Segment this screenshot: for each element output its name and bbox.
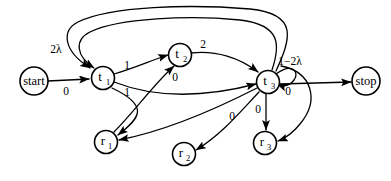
edge-label-t3-r3: 0 — [255, 103, 261, 115]
node-t2-subscript: 2 — [183, 54, 187, 64]
node-r2-label: r — [179, 145, 184, 160]
node-stop-label: stop — [356, 74, 377, 88]
edge-r1-t2 — [114, 66, 174, 132]
node-r3[interactable]: r 3 — [254, 132, 277, 155]
node-r1-subscript: 1 — [108, 141, 112, 151]
edge-label-t3-stop: 0 — [285, 85, 291, 97]
node-t2-label: t — [175, 46, 179, 61]
edge-t3-r2 — [196, 92, 259, 150]
node-start[interactable]: start — [20, 67, 48, 95]
node-r2-subscript: 2 — [186, 153, 190, 163]
edge-label-r1-t2: 0 — [172, 71, 178, 83]
node-t1-subscript: 1 — [106, 77, 110, 87]
node-r1[interactable]: r 1 — [95, 131, 118, 154]
edge-label-t2-t3: 2 — [200, 38, 206, 50]
node-r2-circle[interactable] — [173, 143, 196, 166]
state-transition-diagram: 0 1 1 2 0 1−2λ 0 0 0 2λ start t 1 — [0, 0, 391, 181]
edge-start-t1 — [48, 79, 89, 81]
diagram-canvas: 0 1 1 2 0 1−2λ 0 0 0 2λ start t 1 — [0, 0, 391, 181]
node-t3-label: t — [263, 73, 267, 88]
edge-label-t3-self-loop: 1−2λ — [278, 55, 302, 67]
node-t1-label: t — [98, 69, 102, 84]
node-t3-circle[interactable] — [257, 71, 280, 94]
node-r3-subscript: 3 — [267, 142, 271, 152]
edge-label-start-t1: 0 — [63, 85, 69, 97]
node-r1-circle[interactable] — [95, 131, 118, 154]
edge-label-t1-t2: 1 — [124, 59, 130, 71]
node-t2[interactable]: t 2 — [169, 44, 192, 67]
node-stop[interactable]: stop — [352, 67, 380, 95]
node-start-label: start — [23, 74, 45, 88]
edge-label-t3-t1-outer: 2λ — [50, 43, 62, 55]
edge-label-t1-r1: 1 — [124, 86, 130, 98]
edge-label-t3-r2: 0 — [229, 110, 235, 122]
edge-t3-r1 — [119, 88, 257, 140]
node-t2-circle[interactable] — [169, 44, 192, 67]
edge-t3-r3-arc — [278, 66, 311, 141]
node-r3-circle[interactable] — [254, 132, 277, 155]
node-r1-label: r — [101, 133, 106, 148]
node-r2[interactable]: r 2 — [173, 143, 196, 166]
node-r3-label: r — [260, 134, 265, 149]
edge-t2-t3 — [191, 52, 258, 72]
node-t1-circle[interactable] — [92, 67, 115, 90]
node-t3[interactable]: t 3 — [257, 71, 280, 94]
edge-t1-t3 — [114, 82, 256, 94]
node-t1[interactable]: t 1 — [92, 67, 115, 90]
node-t3-subscript: 3 — [271, 81, 275, 91]
edge-t1-t2 — [114, 55, 168, 74]
